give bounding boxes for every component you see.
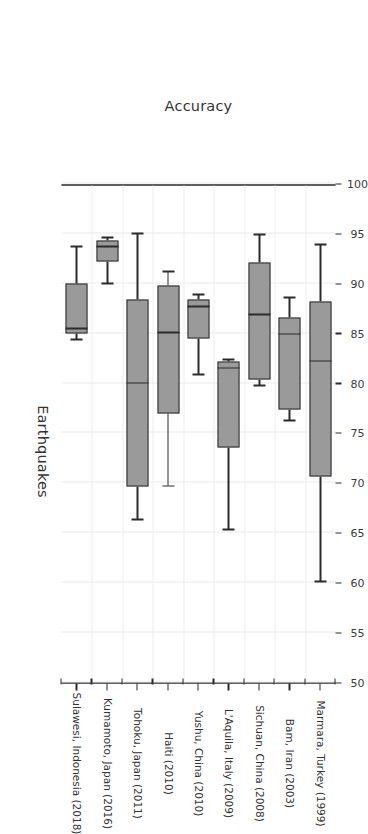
value-tick-mark — [335, 432, 341, 433]
category-label: Kumamoto, Japan (2016) — [101, 697, 113, 828]
category-axis-title: Earthquakes — [34, 405, 50, 498]
value-tick-label: 85 — [350, 327, 364, 340]
category-tick-mark — [75, 683, 76, 690]
value-tick-mark — [335, 682, 341, 683]
category-tick-mark — [167, 683, 168, 690]
category-boundary-tick — [182, 678, 183, 684]
category-boundary-tick — [212, 678, 213, 684]
value-tick-mark — [335, 283, 341, 284]
value-tick-label: 95 — [350, 227, 364, 240]
category-boundary-tick — [243, 678, 244, 684]
whisker-high-cap — [314, 243, 326, 245]
value-tick-mark — [335, 632, 341, 633]
whisker-high-stem — [319, 244, 321, 301]
box-iqr-rect[interactable] — [309, 301, 331, 477]
value-tick-label: 100 — [347, 178, 368, 191]
value-tick-label: 50 — [350, 677, 364, 690]
category-boundary-tick — [334, 678, 335, 684]
category-label: Marmara, Turkey (1999) — [314, 700, 326, 826]
category-label: L'Aquila, Italy (2009) — [222, 708, 234, 817]
value-tick-label: 75 — [350, 427, 364, 440]
category-boundary-tick — [60, 678, 61, 684]
value-tick-mark — [335, 233, 341, 234]
category-tick-mark — [106, 683, 107, 690]
median-line — [309, 360, 331, 362]
gridline-value — [61, 182, 335, 183]
category-boundary-tick — [273, 678, 274, 684]
value-tick-label: 90 — [350, 277, 364, 290]
category-tick-mark — [258, 683, 259, 690]
category-boundary-tick — [121, 678, 122, 684]
value-tick-mark — [335, 332, 341, 333]
category-label: Sulawesi, Indonesia (2018) — [70, 692, 82, 834]
category-label: Tohoku, Japan (2011) — [131, 708, 143, 819]
category-tick-mark — [319, 683, 320, 690]
category-boundary-tick — [304, 678, 305, 684]
category-label: Yushu, China (2010) — [192, 710, 204, 816]
value-tick-mark — [335, 482, 341, 483]
category-label: Sichuan, China (2008) — [253, 705, 265, 822]
value-tick-mark — [335, 582, 341, 583]
boxplot-box[interactable] — [61, 185, 335, 682]
value-tick-mark — [335, 382, 341, 383]
value-tick-label: 80 — [350, 377, 364, 390]
category-tick-mark — [136, 683, 137, 690]
category-boundary-tick — [90, 678, 91, 684]
whisker-low-stem — [319, 476, 321, 581]
plot-area — [61, 184, 335, 683]
value-tick-label: 55 — [350, 627, 364, 640]
value-axis-title: Accuracy — [164, 97, 232, 113]
value-tick-mark — [335, 183, 341, 184]
value-tick-mark — [335, 532, 341, 533]
whisker-low-cap — [314, 580, 326, 582]
category-tick-mark — [288, 683, 289, 690]
category-tick-mark — [227, 683, 228, 690]
value-tick-label: 65 — [350, 527, 364, 540]
category-label: Bam, Iran (2003) — [283, 718, 295, 807]
value-tick-label: 70 — [350, 477, 364, 490]
value-tick-label: 60 — [350, 577, 364, 590]
category-tick-mark — [197, 683, 198, 690]
category-label: Haiti (2010) — [162, 732, 174, 795]
category-boundary-tick — [151, 678, 152, 684]
